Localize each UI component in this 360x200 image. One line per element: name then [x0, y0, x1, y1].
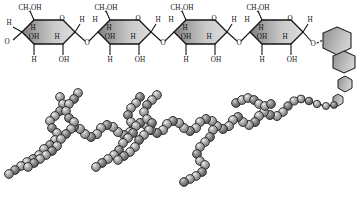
ring4-interior-h-label: H [258, 24, 263, 32]
link2-right-h-label: H [168, 16, 173, 24]
bead [331, 102, 338, 109]
ring4-bottom-oh-label: OH [287, 56, 297, 64]
ring2-interior-right-h-label: H [130, 33, 135, 41]
bead [313, 100, 320, 107]
polysaccharide-figure: CH2OH O H O H OH H H OH H O H CH2OH O H … [0, 0, 360, 200]
ring1-bottom-oh-label: OH [59, 56, 69, 64]
ring2-interior-oh-label: OH [105, 33, 115, 41]
ring4-interior-oh-label: OH [257, 33, 267, 41]
link1-oxygen-label: O [84, 39, 89, 47]
ring3-bottom-h-label: H [183, 56, 188, 64]
ring3-bottom-oh-label: OH [211, 56, 221, 64]
ring3-interior-h-label: H [182, 24, 187, 32]
ring3-interior-oh-label: OH [181, 33, 191, 41]
ring2-bottom-h-label: H [107, 56, 112, 64]
bead [267, 100, 276, 109]
ring4-terminal-o-label: O [310, 40, 315, 48]
ring1-interior-oh-label: OH [29, 33, 39, 41]
ring4-bottom-h-label: H [259, 56, 264, 64]
ring2-ring-oxygen-label: O [135, 15, 140, 23]
bead [322, 102, 329, 109]
bead [92, 163, 101, 172]
plain-hexagon-3 [338, 76, 352, 92]
link2-oxygen-label: O [160, 39, 165, 47]
bead [114, 156, 123, 165]
ring2-interior-h-label: H [106, 24, 111, 32]
plain-hexagon-2 [333, 51, 355, 73]
ring1-ring-oxygen-label: O [59, 15, 64, 23]
link3-oxygen-label: O [236, 39, 241, 47]
ring1-interior-h-label: H [30, 24, 35, 32]
ring2-bottom-oh-label: OH [135, 56, 145, 64]
ring1-interior-right-h-label: H [54, 33, 59, 41]
ring1-right-h-label: H [79, 16, 84, 24]
bead [5, 170, 14, 179]
bead [305, 97, 313, 105]
ring4-ring-oxygen-label: O [287, 15, 292, 23]
ring4-terminal-h-label: H [307, 16, 312, 24]
ring1-left-o-label: O [4, 38, 9, 46]
ring3-right-h-label: H [231, 16, 236, 24]
ring1-bottom-h-label: H [31, 56, 36, 64]
bead [180, 178, 189, 187]
ring2-right-h-label: H [155, 16, 160, 24]
figure-canvas: CH2OH O H O H OH H H OH H O H CH2OH O H … [0, 0, 360, 200]
link1-right-h-label: H [92, 16, 97, 24]
bead [24, 163, 33, 172]
link3-right-h-label: H [244, 16, 249, 24]
ring3-interior-right-h-label: H [206, 33, 211, 41]
ring3-ring-oxygen-label: O [211, 15, 216, 23]
ring1-left-h-label: H [6, 19, 11, 27]
ring4-interior-right-h-label: H [282, 33, 287, 41]
